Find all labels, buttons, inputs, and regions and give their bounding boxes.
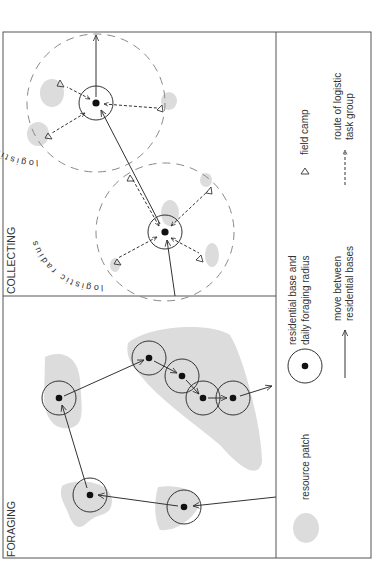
resource-patch — [44, 354, 82, 428]
legend-field-camp: field camp — [299, 109, 310, 155]
field-camp-swatch — [301, 168, 309, 174]
legend-route-1: route of logistic — [332, 73, 343, 140]
collecting-panel: logistic radius logistic radius COLLECTI… — [0, 34, 234, 301]
legend-residential-base-2: daily foraging radius — [300, 256, 311, 346]
outer-frame — [3, 32, 371, 558]
logistic-radius-label: logistic radius — [29, 238, 103, 294]
legend-move-1: move between — [332, 256, 343, 321]
foraging-collecting-diagram: FORAGING — [0, 0, 381, 565]
resource-patch-swatch — [293, 513, 319, 543]
legend: resource patch residential base and dail… — [287, 73, 355, 543]
resource-patch — [127, 327, 262, 471]
legend-resource-patch: resource patch — [300, 434, 311, 500]
collecting-title: COLLECTING — [5, 227, 17, 294]
foraging-title: FORAGING — [5, 501, 17, 557]
foraging-panel: FORAGING — [5, 327, 276, 557]
legend-move-2: residential bases — [344, 246, 355, 321]
legend-residential-base-1: residential base and — [287, 255, 298, 345]
legend-route-2: task group — [344, 93, 355, 140]
